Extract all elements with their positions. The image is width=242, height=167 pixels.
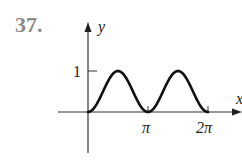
y-axis-label: y <box>96 18 106 36</box>
x-tick-label-2pi: 2π <box>196 119 213 136</box>
y-axis-arrow-icon <box>85 22 92 32</box>
y-tick-label-1: 1 <box>73 63 81 80</box>
function-curve <box>88 71 208 112</box>
x-tick-label-pi: π <box>142 119 151 136</box>
x-axis-label: x <box>235 90 242 107</box>
x-axis-arrow-icon <box>232 109 242 116</box>
graph: y x 1 π 2π <box>0 0 242 167</box>
